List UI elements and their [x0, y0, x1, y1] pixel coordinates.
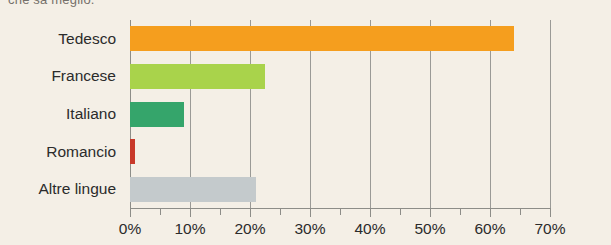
horizontal-bar-chart: TedescoFranceseItalianoRomancioAltre lin…	[0, 12, 611, 245]
category-label-romancio: Romancio	[0, 143, 116, 161]
x-tick-label-60pct: 60%	[474, 220, 505, 238]
category-axis-labels: TedescoFranceseItalianoRomancioAltre lin…	[0, 20, 122, 208]
x-tick-0	[130, 208, 131, 217]
bar-italiano	[130, 102, 184, 127]
bar-romancio	[130, 139, 135, 164]
x-tick-label-30pct: 30%	[294, 220, 325, 238]
x-tick-45	[400, 208, 401, 215]
x-tick-15	[220, 208, 221, 215]
x-tick-30	[310, 208, 311, 217]
plot-area	[130, 20, 550, 208]
category-label-italiano: Italiano	[0, 105, 116, 123]
x-tick-label-40pct: 40%	[354, 220, 385, 238]
x-tick-40	[370, 208, 371, 217]
x-tick-label-50pct: 50%	[414, 220, 445, 238]
category-label-francese: Francese	[0, 67, 116, 85]
x-tick-25	[280, 208, 281, 215]
x-tick-20	[250, 208, 251, 217]
category-label-tedesco: Tedesco	[0, 30, 116, 48]
x-tick-10	[190, 208, 191, 217]
bar-francese	[130, 64, 265, 89]
x-tick-label-10pct: 10%	[174, 220, 205, 238]
chart-page: che sa meglio. TedescoFranceseItalianoRo…	[0, 0, 611, 245]
x-tick-50	[430, 208, 431, 217]
x-tick-55	[460, 208, 461, 215]
x-tick-60	[490, 208, 491, 217]
x-tick-label-20pct: 20%	[234, 220, 265, 238]
bar-tedesco	[130, 26, 514, 51]
x-tick-70	[550, 208, 551, 217]
cut-off-caption: che sa meglio.	[8, 0, 95, 7]
x-tick-label-70pct: 70%	[534, 220, 565, 238]
gridline-70	[550, 20, 551, 208]
x-tick-label-0pct: 0%	[119, 220, 141, 238]
x-axis-tick-labels: 0%10%20%30%40%50%60%70%	[0, 220, 611, 244]
x-tick-65	[520, 208, 521, 215]
bar-altre-lingue	[130, 177, 256, 202]
category-label-altre-lingue: Altre lingue	[0, 180, 116, 198]
x-tick-35	[340, 208, 341, 215]
x-tick-5	[160, 208, 161, 215]
